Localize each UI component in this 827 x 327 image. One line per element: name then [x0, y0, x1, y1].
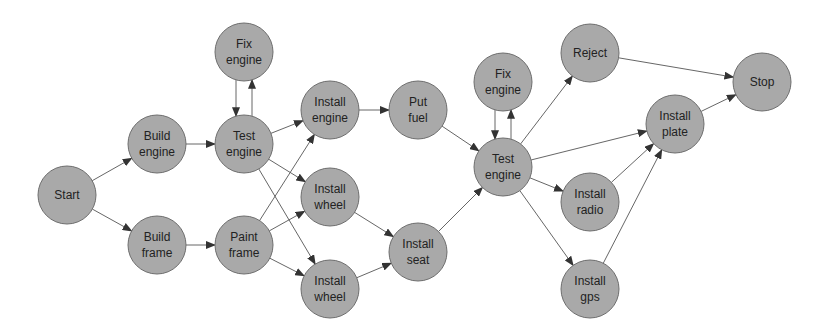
edge-put-fuel-to-test-engine-2 [442, 126, 479, 151]
node-label: Build [144, 129, 171, 143]
node-circle [561, 260, 619, 318]
node-label: engine [226, 53, 262, 67]
node-label: engine [139, 145, 175, 159]
node-circle [215, 115, 273, 173]
node-circle [474, 138, 532, 196]
node-label: engine [312, 111, 348, 125]
edge-test-engine-2-to-install-plate [531, 131, 647, 160]
edge-install-seat-to-test-engine-2 [439, 188, 483, 232]
edge-start-to-build-frame [92, 209, 131, 231]
node-label: wheel [313, 198, 345, 212]
node-label: Install [574, 187, 605, 201]
node-label: Install [574, 274, 605, 288]
node-circle [561, 173, 619, 231]
node-label: frame [142, 246, 173, 260]
node-label: Stop [750, 75, 775, 89]
node-circle [301, 81, 359, 139]
node-circle [215, 23, 273, 81]
node-label: engine [226, 145, 262, 159]
node-label: Test [233, 129, 256, 143]
node-label: Install [314, 182, 345, 196]
node-circle [301, 260, 359, 318]
node-label: engine [485, 83, 521, 97]
node-fix-engine-2: Fixengine [474, 53, 532, 111]
node-label: Install [402, 237, 433, 251]
edge-test-engine-1-to-install-wheel-1 [269, 159, 306, 182]
node-stop: Stop [733, 53, 791, 111]
node-label: Paint [230, 230, 258, 244]
node-circle [128, 216, 186, 274]
node-label: Fix [495, 67, 511, 81]
node-label: fuel [408, 111, 427, 125]
node-label: plate [662, 125, 688, 139]
node-start: Start [38, 166, 96, 224]
nodes-layer: StartBuildengineBuildframeFixengineTeste… [38, 23, 791, 318]
node-label: seat [407, 253, 430, 267]
node-build-engine: Buildengine [128, 115, 186, 173]
node-label: Start [54, 188, 80, 202]
node-circle [646, 95, 704, 153]
node-circle [215, 216, 273, 274]
node-label: radio [577, 203, 604, 217]
node-label: Install [314, 95, 345, 109]
edge-test-engine-1-to-install-engine [271, 121, 303, 134]
edge-test-engine-2-to-install-radio [530, 178, 563, 191]
node-test-engine-2: Testengine [474, 138, 532, 196]
node-paint-frame: Paintframe [215, 216, 273, 274]
node-fix-engine-1: Fixengine [215, 23, 273, 81]
node-label: Build [144, 230, 171, 244]
node-reject: Reject [561, 24, 619, 82]
node-install-plate: Installplate [646, 95, 704, 153]
edge-start-to-build-engine [92, 158, 132, 180]
node-circle [389, 81, 447, 139]
node-install-wheel-2: Installwheel [301, 260, 359, 318]
node-label: frame [229, 246, 260, 260]
node-circle [474, 53, 532, 111]
node-install-seat: Installseat [389, 223, 447, 281]
edge-paint-frame-to-install-wheel-2 [270, 258, 304, 276]
edge-install-wheel-2-to-install-seat [357, 263, 392, 278]
node-label: Install [314, 274, 345, 288]
node-circle [389, 223, 447, 281]
node-label: Fix [236, 37, 252, 51]
edge-install-radio-to-install-plate [611, 144, 653, 183]
node-put-fuel: Putfuel [389, 81, 447, 139]
node-circle [301, 168, 359, 226]
node-build-frame: Buildframe [128, 216, 186, 274]
node-install-engine: Installengine [301, 81, 359, 139]
edge-install-wheel-1-to-install-seat [355, 212, 394, 236]
node-label: gps [580, 290, 599, 304]
node-install-gps: Installgps [561, 260, 619, 318]
node-test-engine-1: Testengine [215, 115, 273, 173]
node-label: wheel [313, 290, 345, 304]
node-install-radio: Installradio [561, 173, 619, 231]
node-label: Reject [573, 46, 608, 60]
edge-install-plate-to-stop [701, 95, 736, 112]
node-label: Install [659, 109, 690, 123]
node-label: Test [492, 152, 515, 166]
node-circle [128, 115, 186, 173]
node-install-wheel-1: Installwheel [301, 168, 359, 226]
edge-paint-frame-to-install-wheel-1 [269, 211, 304, 231]
node-label: engine [485, 168, 521, 182]
node-label: Put [409, 95, 428, 109]
process-flow-diagram: StartBuildengineBuildframeFixengineTeste… [0, 0, 827, 327]
edge-reject-to-stop [619, 58, 734, 77]
